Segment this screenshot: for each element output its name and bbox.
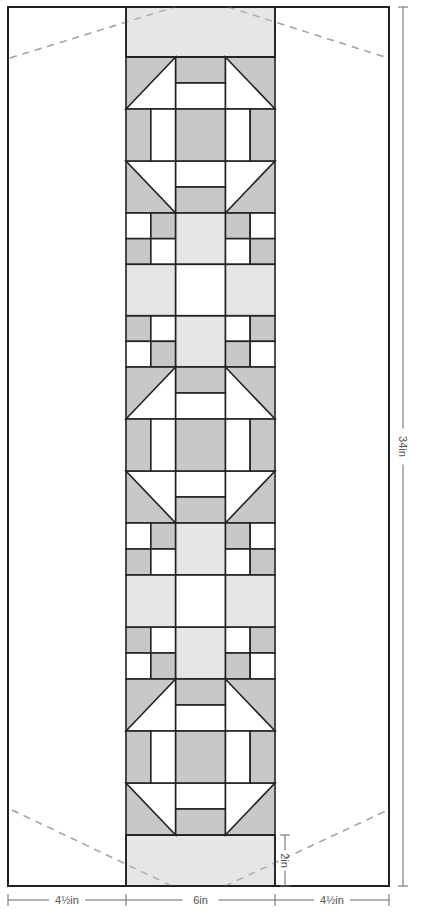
top-border bbox=[126, 7, 275, 57]
four-patch-cell bbox=[250, 523, 275, 549]
side-square bbox=[176, 316, 226, 367]
rail-light bbox=[176, 161, 226, 187]
four-patch-cell bbox=[225, 627, 250, 653]
rail-dark bbox=[250, 731, 275, 783]
four-patch-cell bbox=[126, 627, 151, 653]
rail-light bbox=[151, 109, 176, 161]
rail-dark bbox=[176, 497, 226, 523]
four-patch-cell bbox=[225, 341, 250, 367]
rail-dark bbox=[126, 731, 151, 783]
four-patch-cell bbox=[151, 239, 176, 265]
four-patch-cell bbox=[151, 523, 176, 549]
four-patch-cell bbox=[225, 549, 250, 575]
bottom-border bbox=[126, 835, 275, 886]
four-patch-cell bbox=[225, 653, 250, 679]
block-center bbox=[176, 731, 226, 783]
rail-dark bbox=[176, 367, 226, 393]
rail-light bbox=[225, 731, 250, 783]
four-patch-cell bbox=[126, 549, 151, 575]
rail-light bbox=[225, 109, 250, 161]
four-patch-cell bbox=[151, 316, 176, 342]
block-center bbox=[176, 264, 226, 315]
four-patch-cell bbox=[250, 341, 275, 367]
four-patch-cell bbox=[151, 653, 176, 679]
right-width-label: 4½in bbox=[320, 894, 344, 906]
rail-light bbox=[176, 471, 226, 497]
side-square bbox=[176, 523, 226, 575]
quilt-diagram: 4½in 6in 4½in 34in 2in bbox=[0, 0, 426, 916]
four-patch-cell bbox=[126, 239, 151, 265]
four-patch-cell bbox=[151, 213, 176, 239]
four-patch-cell bbox=[126, 341, 151, 367]
four-patch-cell bbox=[225, 213, 250, 239]
four-patch-cell bbox=[225, 239, 250, 265]
left-width-label: 4½in bbox=[55, 894, 79, 906]
side-square bbox=[176, 627, 226, 679]
four-patch-cell bbox=[250, 627, 275, 653]
four-patch-cell bbox=[151, 549, 176, 575]
block-center bbox=[176, 419, 226, 471]
side-square bbox=[176, 213, 226, 264]
total-height-label: 34in bbox=[397, 436, 409, 457]
rail-dark bbox=[126, 109, 151, 161]
side-square bbox=[126, 264, 176, 315]
rail-dark bbox=[126, 419, 151, 471]
block-center bbox=[176, 575, 226, 627]
four-patch-cell bbox=[225, 523, 250, 549]
rail-dark bbox=[176, 809, 226, 835]
rail-light bbox=[176, 783, 226, 809]
four-patch-cell bbox=[126, 523, 151, 549]
rail-light bbox=[176, 83, 226, 109]
four-patch-cell bbox=[151, 341, 176, 367]
rail-dark bbox=[176, 187, 226, 213]
side-square bbox=[225, 575, 275, 627]
four-patch-cell bbox=[250, 549, 275, 575]
four-patch-cell bbox=[250, 213, 275, 239]
rail-light bbox=[151, 419, 176, 471]
rail-dark bbox=[176, 679, 226, 705]
border-height-label: 2in bbox=[279, 853, 291, 868]
rail-dark bbox=[250, 109, 275, 161]
four-patch-cell bbox=[225, 316, 250, 342]
rail-dark bbox=[250, 419, 275, 471]
four-patch-cell bbox=[151, 627, 176, 653]
four-patch-cell bbox=[126, 213, 151, 239]
four-patch-cell bbox=[250, 653, 275, 679]
rail-light bbox=[225, 419, 250, 471]
center-strip bbox=[126, 7, 275, 886]
four-patch-cell bbox=[126, 316, 151, 342]
four-patch-cell bbox=[250, 239, 275, 265]
center-width-label: 6in bbox=[193, 894, 208, 906]
rail-light bbox=[176, 705, 226, 731]
four-patch-cell bbox=[126, 653, 151, 679]
side-square bbox=[225, 264, 275, 315]
four-patch-cell bbox=[250, 316, 275, 342]
block-center bbox=[176, 109, 226, 161]
rail-light bbox=[151, 731, 176, 783]
rail-light bbox=[176, 393, 226, 419]
side-square bbox=[126, 575, 176, 627]
rail-dark bbox=[176, 57, 226, 83]
